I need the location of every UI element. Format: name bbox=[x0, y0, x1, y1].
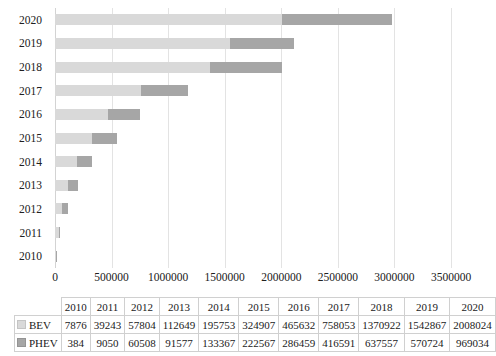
table-cell-bev-2015: 324907 bbox=[239, 316, 279, 334]
bar-segment-bev-2016[interactable] bbox=[55, 109, 108, 120]
y-axis-label-2020: 2020 bbox=[19, 14, 42, 26]
bar-segment-phev-2017[interactable] bbox=[141, 85, 188, 96]
y-axis-label-2015: 2015 bbox=[19, 132, 42, 144]
table-column-header-2013: 2013 bbox=[159, 298, 199, 316]
bar-row[interactable] bbox=[55, 251, 451, 262]
y-axis-label-2010: 2010 bbox=[19, 250, 42, 262]
y-axis-label-2011: 2011 bbox=[19, 227, 42, 239]
table-cell-phev-2012: 60508 bbox=[125, 334, 160, 352]
table-cell-bev-2017: 758053 bbox=[319, 316, 359, 334]
table-cell-phev-2011: 9050 bbox=[90, 334, 125, 352]
table-column-header-2014: 2014 bbox=[199, 298, 239, 316]
bar-segment-phev-2013[interactable] bbox=[68, 180, 78, 191]
x-axis-labels: 0500000100000015000002000000250000030000… bbox=[0, 270, 491, 288]
table-column-header-2012: 2012 bbox=[125, 298, 160, 316]
table-cell-bev-2014: 195753 bbox=[199, 316, 239, 334]
bar-row[interactable] bbox=[55, 85, 451, 96]
y-axis-label-2019: 2019 bbox=[19, 37, 42, 49]
stacked-bar-chart: 2010201120122013201420152016201720182019… bbox=[0, 0, 491, 295]
table-column-header-2010: 2010 bbox=[61, 298, 90, 316]
bar-segment-bev-2014[interactable] bbox=[55, 156, 77, 167]
bar-row[interactable] bbox=[55, 14, 451, 25]
x-axis-tick-1500000: 1500000 bbox=[205, 270, 245, 284]
x-axis-tick-0: 0 bbox=[52, 270, 58, 284]
data-table: 2010201120122013201420152016201720182019… bbox=[14, 297, 496, 352]
table-row-phev: PHEV384905060508915771333672225672864594… bbox=[15, 334, 496, 352]
legend-swatch-icon-bev bbox=[17, 320, 26, 329]
bar-segment-phev-2011[interactable] bbox=[59, 227, 60, 238]
bar-segment-phev-2015[interactable] bbox=[92, 133, 117, 144]
legend-entry-bev: BEV bbox=[15, 316, 62, 334]
x-axis-tick-500000: 500000 bbox=[94, 270, 129, 284]
bar-row[interactable] bbox=[55, 203, 451, 214]
bar-segment-bev-2020[interactable] bbox=[55, 14, 282, 25]
bar-row[interactable] bbox=[55, 109, 451, 120]
x-axis-tick-3000000: 3000000 bbox=[374, 270, 414, 284]
table-column-header-2019: 2019 bbox=[404, 298, 450, 316]
table-cell-phev-2010: 384 bbox=[61, 334, 90, 352]
table-column-header-2018: 2018 bbox=[359, 298, 405, 316]
table-column-header-2015: 2015 bbox=[239, 298, 279, 316]
legend-label: BEV bbox=[29, 319, 51, 331]
bar-row[interactable] bbox=[55, 62, 451, 73]
table-cell-bev-2011: 39243 bbox=[90, 316, 125, 334]
table-column-header-2016: 2016 bbox=[279, 298, 319, 316]
bar-segment-phev-2012[interactable] bbox=[62, 203, 69, 214]
table-body: BEV7876392435780411264919575332490746563… bbox=[15, 316, 496, 352]
table-row-bev: BEV7876392435780411264919575332490746563… bbox=[15, 316, 496, 334]
table-cell-phev-2015: 222567 bbox=[239, 334, 279, 352]
bar-row[interactable] bbox=[55, 156, 451, 167]
legend-swatch-icon-phev bbox=[17, 338, 26, 347]
table-cell-phev-2019: 570724 bbox=[404, 334, 450, 352]
table-cell-phev-2018: 637557 bbox=[359, 334, 405, 352]
y-axis-label-2016: 2016 bbox=[19, 108, 42, 120]
y-axis-label-2017: 2017 bbox=[19, 85, 42, 97]
table-corner-cell bbox=[15, 298, 62, 316]
table-cell-bev-2019: 1542867 bbox=[404, 316, 450, 334]
bar-segment-phev-2016[interactable] bbox=[108, 109, 140, 120]
table-cell-bev-2018: 1370922 bbox=[359, 316, 405, 334]
table-cell-phev-2016: 286459 bbox=[279, 334, 319, 352]
bar-segment-phev-2019[interactable] bbox=[230, 38, 295, 49]
bar-segment-bev-2018[interactable] bbox=[55, 62, 210, 73]
table-cell-phev-2020: 969034 bbox=[450, 334, 496, 352]
bar-segment-phev-2018[interactable] bbox=[210, 62, 282, 73]
table-column-header-2017: 2017 bbox=[319, 298, 359, 316]
table-cell-phev-2017: 416591 bbox=[319, 334, 359, 352]
legend-label: PHEV bbox=[29, 337, 58, 349]
y-axis-label-2013: 2013 bbox=[19, 179, 42, 191]
x-axis-tick-2000000: 2000000 bbox=[261, 270, 301, 284]
table-cell-bev-2010: 7876 bbox=[61, 316, 90, 334]
bar-segment-bev-2015[interactable] bbox=[55, 133, 92, 144]
table-cell-phev-2013: 91577 bbox=[159, 334, 199, 352]
bar-segment-bev-2017[interactable] bbox=[55, 85, 141, 96]
bar-row[interactable] bbox=[55, 180, 451, 191]
table-column-header-2020: 2020 bbox=[450, 298, 496, 316]
table-header-row: 2010201120122013201420152016201720182019… bbox=[15, 298, 496, 316]
y-axis-label-2018: 2018 bbox=[19, 61, 42, 73]
y-axis-label-2012: 2012 bbox=[19, 203, 42, 215]
x-axis-tick-2500000: 2500000 bbox=[318, 270, 358, 284]
table-column-header-2011: 2011 bbox=[90, 298, 125, 316]
x-axis-tick-1000000: 1000000 bbox=[148, 270, 188, 284]
table-cell-bev-2016: 465632 bbox=[279, 316, 319, 334]
bar-segment-bev-2013[interactable] bbox=[55, 180, 68, 191]
x-axis-tick-3500000: 3500000 bbox=[431, 270, 471, 284]
bar-segment-phev-2010[interactable] bbox=[56, 251, 57, 262]
table-cell-bev-2020: 2008024 bbox=[450, 316, 496, 334]
bar-segment-phev-2020[interactable] bbox=[282, 14, 392, 25]
gridline-3500000 bbox=[451, 8, 452, 268]
table-cell-bev-2013: 112649 bbox=[159, 316, 199, 334]
plot-area bbox=[55, 8, 451, 268]
bar-segment-phev-2014[interactable] bbox=[77, 156, 92, 167]
bar-row[interactable] bbox=[55, 38, 451, 49]
bar-segment-bev-2019[interactable] bbox=[55, 38, 230, 49]
table-cell-phev-2014: 133367 bbox=[199, 334, 239, 352]
bar-row[interactable] bbox=[55, 227, 451, 238]
table-cell-bev-2012: 57804 bbox=[125, 316, 160, 334]
bar-row[interactable] bbox=[55, 133, 451, 144]
y-axis-labels: 2010201120122013201420152016201720182019… bbox=[0, 8, 47, 268]
legend-entry-phev: PHEV bbox=[15, 334, 62, 352]
y-axis-label-2014: 2014 bbox=[19, 156, 42, 168]
